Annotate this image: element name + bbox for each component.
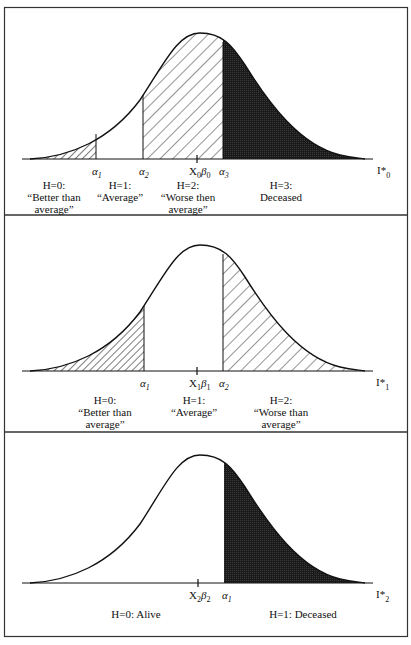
- svg-text:“Worse than: “Worse than: [254, 406, 309, 418]
- category-label-h0: H=0: Alive: [111, 608, 160, 620]
- axis-label: I*: [377, 164, 386, 176]
- category-label-h2: H=2: “Worse then average”: [161, 179, 216, 215]
- density-curve: [30, 455, 365, 583]
- axis-label: I*: [376, 588, 385, 600]
- svg-text:H=1:: H=1:: [109, 179, 132, 191]
- region-h3-dark-fill: [223, 20, 373, 160]
- svg-text:average”: average”: [261, 418, 300, 430]
- category-label-h2: H=2: “Worse than average”: [254, 394, 309, 430]
- category-label-h1: H=1: “Average”: [171, 394, 217, 418]
- svg-text:H=2:: H=2:: [177, 179, 200, 191]
- svg-text:H=1:: H=1:: [183, 394, 206, 406]
- svg-text:I*2: I*2: [376, 588, 389, 604]
- svg-text:H=2:: H=2:: [270, 394, 293, 406]
- svg-text:α2: α2: [139, 165, 149, 180]
- category-label-h0: H=0: “Better than average”: [78, 394, 132, 430]
- ordered-probit-figure: α1 α2 X0β0 α3 I*0 H=0: “Better than aver…: [0, 0, 411, 645]
- svg-text:X2β2: X2β2: [189, 589, 210, 604]
- svg-text:α1: α1: [92, 165, 102, 180]
- panel-1: α1 X1β1 α2 I*1 H=0: “Better than average…: [20, 230, 389, 430]
- density-curve: [30, 245, 365, 371]
- category-label-h3: H=3: Deceased: [260, 179, 303, 203]
- svg-text:I*1: I*1: [376, 376, 389, 392]
- svg-text:H=0:: H=0:: [94, 394, 117, 406]
- svg-text:H=0:: H=0:: [43, 179, 66, 191]
- svg-text:“Average”: “Average”: [97, 191, 143, 203]
- region-h1-dark-fill: [224, 440, 374, 584]
- svg-text:average”: average”: [168, 203, 207, 215]
- mean-label: X: [189, 377, 197, 389]
- svg-text:α3: α3: [219, 165, 229, 180]
- svg-text:α2: α2: [219, 377, 229, 392]
- svg-text:H=3:: H=3:: [270, 179, 293, 191]
- category-label-h0: H=0: “Better than average”: [27, 179, 81, 215]
- svg-text:“Worse then: “Worse then: [161, 191, 216, 203]
- svg-text:X0β0: X0β0: [189, 165, 210, 180]
- region-h2-sparse-hatch: [223, 230, 373, 372]
- mean-label: X: [189, 165, 197, 177]
- svg-text:average”: average”: [34, 203, 73, 215]
- category-label-h1: H=1: Deceased: [269, 608, 337, 620]
- svg-text:α1: α1: [222, 589, 232, 604]
- region-h0-dense-hatch: [20, 230, 144, 372]
- panel-2: X2β2 α1 I*2 H=0: Alive H=1: Deceased: [22, 440, 389, 620]
- svg-text:“Better than: “Better than: [27, 191, 81, 203]
- svg-text:Deceased: Deceased: [260, 191, 303, 203]
- svg-text:“Average”: “Average”: [171, 406, 217, 418]
- svg-text:α1: α1: [140, 377, 150, 392]
- axis-label: I*: [376, 376, 385, 388]
- category-label-h1: H=1: “Average”: [97, 179, 143, 203]
- svg-text:“Better than: “Better than: [78, 406, 132, 418]
- svg-text:average”: average”: [85, 418, 124, 430]
- region-h0-dense-hatch: [20, 20, 96, 160]
- svg-text:I*0: I*0: [377, 164, 390, 180]
- panel-0: α1 α2 X0β0 α3 I*0 H=0: “Better than aver…: [20, 20, 390, 215]
- mean-label: X: [189, 589, 197, 601]
- region-h2-sparse-hatch: [143, 20, 223, 160]
- svg-text:X1β1: X1β1: [189, 377, 210, 392]
